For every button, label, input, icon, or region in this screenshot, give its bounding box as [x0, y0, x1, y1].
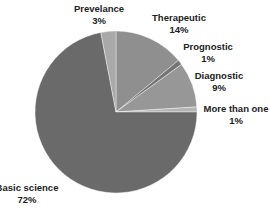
label-basic-science: Basic science 72%	[0, 182, 58, 206]
label-basic-science-name: Basic science	[0, 182, 58, 194]
label-therapeutic: Therapeutic 14%	[152, 12, 206, 36]
label-diagnostic-name: Diagnostic	[195, 70, 244, 82]
label-more-than-one-name: More than one	[204, 103, 269, 115]
label-therapeutic-name: Therapeutic	[152, 12, 206, 24]
label-basic-science-value: 72%	[0, 194, 58, 206]
label-prevelance-value: 3%	[74, 15, 124, 27]
label-diagnostic: Diagnostic 9%	[195, 70, 244, 94]
label-more-than-one-value: 1%	[204, 115, 269, 127]
label-prognostic: Prognostic 1%	[183, 41, 233, 65]
label-prognostic-value: 1%	[183, 53, 233, 65]
label-prevelance-name: Prevelance	[74, 3, 124, 15]
label-more-than-one: More than one 1%	[204, 103, 269, 127]
label-prevelance: Prevelance 3%	[74, 3, 124, 27]
pie-chart: Prevelance 3% Therapeutic 14% Prognostic…	[0, 0, 270, 208]
label-therapeutic-value: 14%	[152, 24, 206, 36]
label-diagnostic-value: 9%	[195, 82, 244, 94]
label-prognostic-name: Prognostic	[183, 41, 233, 53]
